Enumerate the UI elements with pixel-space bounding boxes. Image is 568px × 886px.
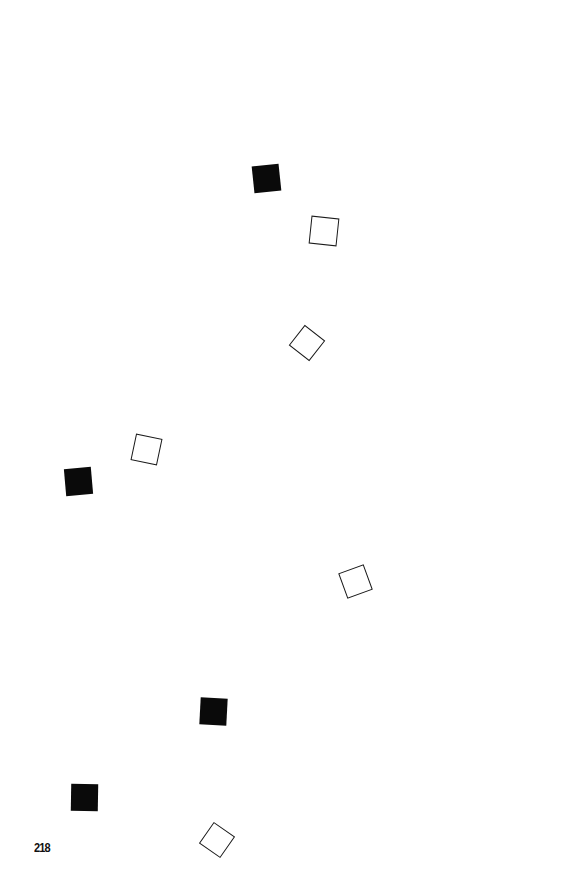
filled-square-shape (70, 783, 97, 810)
page-number: 218 (34, 840, 50, 855)
filled-square-shape (63, 466, 92, 495)
outline-square-shape (289, 325, 325, 361)
document-page: 218 (0, 0, 568, 886)
outline-square-shape (199, 822, 235, 858)
outline-square-shape (309, 216, 340, 247)
filled-square-shape (199, 697, 227, 725)
filled-square-shape (251, 163, 281, 193)
outline-square-shape (338, 564, 373, 599)
outline-square-shape (130, 433, 162, 465)
